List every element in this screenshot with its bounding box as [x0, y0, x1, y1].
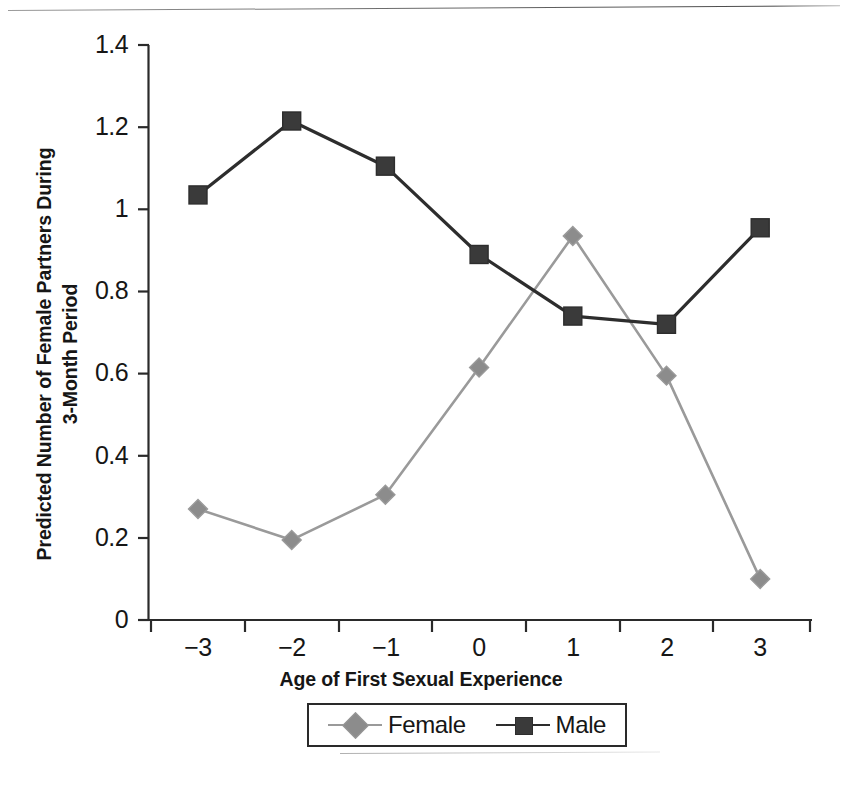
legend-entry-male[interactable]: Male: [496, 711, 606, 739]
legend-swatch-female: [328, 714, 382, 736]
data-point-female-2: [657, 366, 676, 385]
legend-label-female: Female: [388, 711, 466, 739]
y-tick-label-0: 0: [72, 605, 128, 634]
data-point-female--2: [282, 530, 301, 549]
series-markers-male: [189, 112, 769, 333]
x-axis-title: Age of First Sexual Experience: [0, 668, 842, 691]
data-point-male-3: [751, 219, 769, 237]
data-point-female-0: [470, 358, 489, 377]
legend-entry-female[interactable]: Female: [328, 711, 466, 739]
data-point-female--1: [376, 485, 395, 504]
series-line-female: [198, 236, 760, 579]
data-point-male-1: [564, 307, 582, 325]
data-point-female-3: [751, 569, 770, 588]
diamond-marker-icon: [342, 712, 369, 739]
legend-swatch-male: [496, 714, 550, 736]
chart-legend: Female Male: [307, 703, 627, 747]
x-axis-ticks: [151, 620, 810, 632]
data-point-female--3: [189, 500, 208, 519]
line-chart-figure: Predicted Number of Female Partners Duri…: [0, 0, 842, 790]
data-point-female-1: [563, 226, 582, 245]
x-tick-label--1: −1: [356, 633, 416, 662]
data-point-male--3: [189, 186, 207, 204]
x-tick-label-1: 1: [543, 633, 603, 662]
y-tick-label-1.2: 1.2: [72, 112, 128, 141]
y-axis-ticks: [138, 45, 149, 620]
y-tick-label-1: 1: [72, 194, 128, 223]
series-line-male: [198, 121, 760, 324]
y-tick-label-0.6: 0.6: [72, 358, 128, 387]
square-marker-icon: [515, 717, 533, 735]
data-point-male--2: [283, 112, 301, 130]
y-tick-label-0.4: 0.4: [72, 441, 128, 470]
data-point-male--1: [376, 157, 394, 175]
x-tick-label-3: 3: [730, 633, 790, 662]
y-tick-label-1.4: 1.4: [72, 30, 128, 59]
y-tick-label-0.8: 0.8: [72, 276, 128, 305]
data-point-male-2: [658, 315, 676, 333]
x-tick-label-0: 0: [449, 633, 509, 662]
data-point-male-0: [470, 245, 488, 263]
y-tick-label-0.2: 0.2: [72, 523, 128, 552]
legend-label-male: Male: [556, 711, 606, 739]
x-tick-label-2: 2: [637, 633, 697, 662]
x-tick-label--2: −2: [262, 633, 322, 662]
x-tick-label--3: −3: [168, 633, 228, 662]
